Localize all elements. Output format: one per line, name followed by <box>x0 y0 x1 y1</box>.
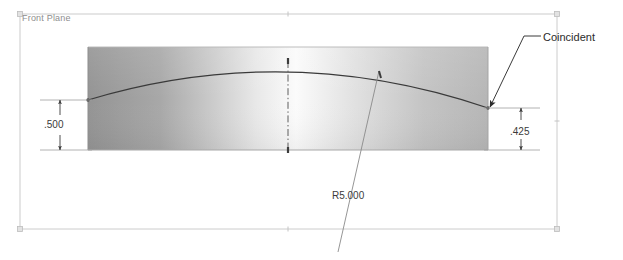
front-plane-label: Front Plane <box>22 13 71 23</box>
cad-sketch-canvas[interactable] <box>0 0 623 260</box>
plane-handle-bottom-right[interactable] <box>555 227 560 232</box>
plane-handle-top-right[interactable] <box>555 12 560 17</box>
dimension-right-value[interactable]: .425 <box>510 126 529 137</box>
dimension-radius-value[interactable]: R5.000 <box>332 190 364 201</box>
plane-handle-bottom-left[interactable] <box>18 227 23 232</box>
annotation-coincident-leader[interactable] <box>490 36 541 107</box>
annotation-coincident-label[interactable]: Coincident <box>543 31 595 43</box>
dimension-left-value[interactable]: .500 <box>44 119 63 130</box>
coincident-leader-arrow[interactable] <box>490 36 524 107</box>
